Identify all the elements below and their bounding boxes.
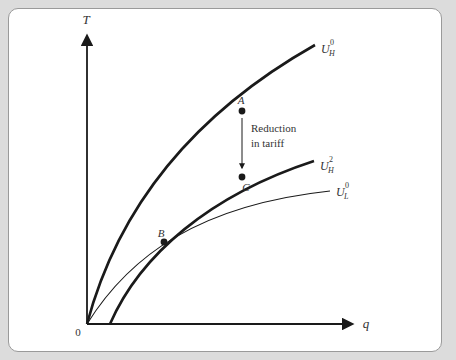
curve-label-UH0-sub: H (328, 49, 336, 58)
annotation-line1: Reduction (251, 122, 297, 134)
point-B (161, 239, 168, 246)
point-C (239, 174, 246, 181)
annotation-line2: in tariff (251, 137, 284, 149)
curve-UH0 (87, 45, 315, 324)
curve-UH2 (110, 161, 314, 324)
curve-label-UL0: U 0 L (336, 181, 349, 201)
point-A-label: A (237, 94, 245, 106)
curve-label-UH2: U 2 H (320, 155, 335, 175)
point-A (239, 108, 246, 115)
curve-label-UH0: U 0 H (321, 38, 336, 58)
point-C-label: C (242, 181, 250, 193)
curve-label-UH2-sup: 2 (329, 155, 333, 164)
curve-label-UL0-sup: 0 (345, 181, 349, 190)
axes (87, 36, 352, 324)
curve-label-UH2-sub: H (327, 166, 335, 175)
point-B-label: B (158, 227, 165, 239)
curve-label-UL0-sub: L (343, 192, 349, 201)
x-axis-label: q (363, 316, 370, 331)
indifference-curves-diagram: T q 0 A B C Reduction in tariff U 0 H U … (0, 0, 456, 360)
origin-label: 0 (75, 326, 81, 338)
curve-label-UH0-sup: 0 (330, 38, 334, 47)
y-axis-label: T (82, 12, 90, 27)
